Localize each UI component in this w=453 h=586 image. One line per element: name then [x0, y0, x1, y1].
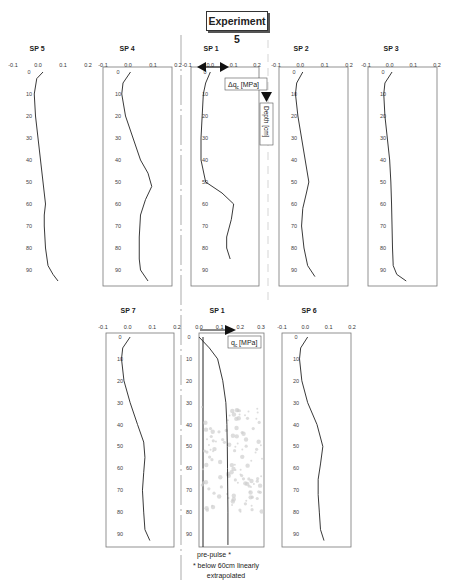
scan-noise [217, 430, 220, 433]
y-tick-label: 60 [115, 201, 121, 207]
scan-noise [207, 487, 210, 490]
y-tick-label: 30 [117, 400, 123, 406]
scan-noise [256, 408, 258, 410]
scan-noise [257, 411, 259, 413]
scan-noise [244, 502, 247, 505]
scan-noise [256, 477, 259, 480]
scan-noise [248, 490, 252, 494]
scan-noise [229, 414, 231, 416]
scan-noise [234, 478, 237, 481]
plot-frame [103, 67, 172, 286]
chart-panel-sp-2: SP 2-0.10.00.10.20102030405060708090 [271, 45, 353, 286]
y-tick-label: 40 [380, 157, 386, 163]
scan-noise [204, 506, 208, 510]
y-tick-label: 60 [117, 465, 123, 471]
y-tick-label: 20 [186, 378, 192, 384]
y-tick-label: 0 [118, 334, 121, 340]
scan-noise [244, 414, 246, 416]
y-tick-label: 10 [26, 91, 32, 97]
panel-title: SP 2 [293, 45, 308, 52]
scan-noise [251, 505, 253, 507]
profile-curve [122, 337, 150, 541]
panel-title: SP 4 [119, 45, 134, 52]
y-tick-label: 60 [380, 201, 386, 207]
panel-title: SP 5 [29, 45, 44, 52]
scan-noise [217, 494, 221, 498]
scan-noise [212, 439, 215, 442]
y-tick-label: 80 [26, 245, 32, 251]
y-tick-label: 90 [115, 267, 121, 273]
profile-curve [201, 72, 234, 259]
x-tick-label: -0.1 [98, 324, 107, 330]
y-tick-label: 0 [116, 69, 119, 75]
scan-noise [201, 406, 203, 408]
y-tick-label: 50 [26, 179, 32, 185]
x-tick-label: 0.1 [216, 324, 224, 330]
scan-noise [237, 482, 239, 484]
scan-noise [212, 447, 216, 451]
scan-noise [240, 511, 242, 513]
scan-noise [258, 421, 261, 424]
scan-noise [215, 440, 217, 442]
y-tick-label: 30 [293, 400, 299, 406]
arrow-right-icon [225, 325, 236, 335]
scan-noise [233, 449, 236, 452]
scan-noise [241, 448, 243, 450]
y-tick-label: 0 [187, 334, 190, 340]
plot-frame [368, 67, 437, 286]
scan-noise [209, 427, 212, 430]
y-tick-label: 60 [291, 201, 297, 207]
scan-noise [248, 410, 250, 412]
scan-noise [236, 408, 239, 411]
chart-panel-sp-5: SP 5-0.10.00.10.20102030405060708090 [8, 45, 92, 281]
arrow-right-icon [220, 62, 229, 72]
panel-title: SP 1 [209, 307, 224, 314]
scan-noise [260, 475, 262, 477]
scan-noise [258, 483, 262, 487]
y-tick-label: 60 [186, 465, 192, 471]
y-tick-label: 50 [380, 179, 386, 185]
panel-title: SP 1 [203, 45, 218, 52]
y-tick-label: 10 [293, 356, 299, 362]
x-tick-label: 0.3 [257, 324, 265, 330]
y-tick-label: 60 [26, 201, 32, 207]
scan-noise [212, 492, 215, 495]
profile-curve [34, 72, 58, 281]
scan-noise [253, 483, 255, 485]
x-tick-label: -0.1 [8, 62, 17, 68]
y-tick-label: 80 [293, 509, 299, 515]
scan-noise [255, 448, 258, 451]
y-tick-label: 20 [117, 378, 123, 384]
scan-noise [242, 477, 245, 480]
scan-noise [250, 508, 253, 511]
scan-noise [247, 477, 250, 480]
scan-noise [208, 455, 211, 458]
scan-noise [210, 449, 212, 451]
y-tick-label: 40 [202, 157, 208, 163]
y-tick-label: 80 [115, 245, 121, 251]
x-tick-label: 0.2 [348, 324, 356, 330]
y-tick-label: 40 [115, 157, 121, 163]
panel-title: SP 7 [120, 307, 135, 314]
y-tick-label: 30 [380, 135, 386, 141]
plot-frame [191, 67, 259, 286]
y-tick-label: 10 [115, 91, 121, 97]
y-tick-label: 0 [381, 69, 384, 75]
y-tick-label: 30 [186, 400, 192, 406]
y-tick-label: 80 [117, 509, 123, 515]
scan-noise [221, 438, 224, 441]
scan-noise [256, 440, 260, 444]
scan-noise [261, 458, 263, 460]
y-tick-label: 70 [117, 487, 123, 493]
scan-noise [210, 458, 213, 461]
y-tick-label: 90 [293, 531, 299, 537]
y-tick-label: 20 [291, 113, 297, 119]
scan-noise [210, 435, 213, 438]
y-tick-label: 90 [26, 267, 32, 273]
scan-noise [260, 509, 264, 513]
y-tick-label: 10 [380, 91, 386, 97]
scan-noise [202, 468, 204, 470]
panel-title: SP 3 [383, 45, 398, 52]
figure-canvas: SP 5-0.10.00.10.20102030405060708090SP 4… [0, 0, 453, 586]
y-tick-label: 30 [26, 135, 32, 141]
